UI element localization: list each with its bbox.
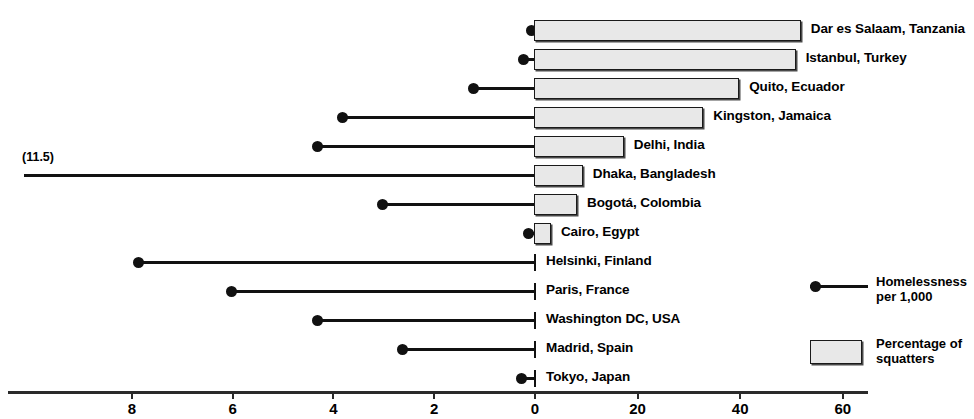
homelessness-dot — [523, 228, 534, 239]
row-label: Tokyo, Japan — [546, 369, 630, 384]
homelessness-dot — [133, 257, 144, 268]
squatters-bar — [534, 107, 703, 128]
chart-row: Cairo, Egypt — [0, 220, 974, 249]
chart-row: Helsinki, Finland — [0, 249, 974, 278]
squatters-bar — [534, 78, 739, 99]
axis-tick-mark — [433, 391, 435, 399]
chart-row: Paris, France — [0, 278, 974, 307]
homelessness-dot — [397, 344, 408, 355]
squatters-bar — [534, 136, 624, 157]
chart-row: Delhi, India — [0, 133, 974, 162]
row-label: Delhi, India — [634, 137, 705, 152]
row-label: Washington DC, USA — [546, 311, 680, 326]
row-label: Quito, Ecuador — [749, 79, 844, 94]
axis-tick-label-right-60: 60 — [834, 400, 851, 417]
axis-tick-mark — [534, 391, 536, 399]
legend-label: Percentage of squatters — [876, 336, 962, 366]
chart-row: Tokyo, Japan — [0, 365, 974, 394]
squatters-bar — [534, 20, 801, 41]
homelessness-stem — [474, 87, 534, 90]
legend-box-swatch — [810, 340, 862, 364]
off-scale-annotation: (11.5) — [22, 150, 54, 164]
squatters-bar — [534, 49, 796, 70]
row-baseline-tick — [534, 370, 536, 387]
axis-tick-mark — [637, 391, 639, 399]
homelessness-dot — [377, 199, 388, 210]
row-baseline-tick — [534, 341, 536, 358]
squatters-bar — [534, 194, 577, 215]
row-baseline-tick — [534, 254, 536, 271]
row-label: Cairo, Egypt — [561, 224, 639, 239]
chart-row: Washington DC, USA — [0, 307, 974, 336]
homelessness-dot — [312, 141, 323, 152]
plot-area: Dar es Salaam, TanzaniaIstanbul, TurkeyQ… — [0, 0, 974, 392]
axis-tick-label-zero: 0 — [531, 400, 539, 417]
x-axis: 86420204060 — [0, 391, 974, 419]
homelessness-dot — [337, 112, 348, 123]
row-label: Helsinki, Finland — [546, 253, 652, 268]
homelessness-stem — [138, 261, 534, 264]
axis-tick-mark — [842, 391, 844, 399]
chart-row: Dar es Salaam, Tanzania — [0, 17, 974, 46]
row-label: Bogotá, Colombia — [587, 195, 701, 210]
axis-tick-mark — [131, 391, 133, 399]
chart-row: Quito, Ecuador — [0, 75, 974, 104]
chart-row: Kingston, Jamaica — [0, 104, 974, 133]
axis-tick-label-left-4: 4 — [329, 400, 337, 417]
homelessness-stem — [317, 319, 534, 322]
row-label: Istanbul, Turkey — [806, 50, 907, 65]
homelessness-dot — [518, 54, 529, 65]
legend-label: Homelessness per 1,000 — [876, 274, 967, 304]
homelessness-stem — [342, 116, 534, 119]
axis-tick-mark — [739, 391, 741, 399]
homelessness-stem — [24, 174, 534, 177]
axis-tick-mark — [332, 391, 334, 399]
homelessness-dot — [312, 315, 323, 326]
homelessness-dot — [516, 373, 527, 384]
chart-row: Dhaka, Bangladesh — [0, 162, 974, 191]
chart-row: Istanbul, Turkey — [0, 46, 974, 75]
homelessness-stem — [403, 348, 534, 351]
homelessness-stem — [317, 145, 534, 148]
homelessness-stem — [383, 203, 534, 206]
row-label: Dar es Salaam, Tanzania — [811, 21, 965, 36]
row-label: Kingston, Jamaica — [713, 108, 831, 123]
chart-row: Bogotá, Colombia — [0, 191, 974, 220]
row-label: Madrid, Spain — [546, 340, 633, 355]
homelessness-dot — [226, 286, 237, 297]
axis-tick-label-left-6: 6 — [228, 400, 236, 417]
row-baseline-tick — [534, 283, 536, 300]
squatters-bar — [534, 223, 551, 244]
squatters-bar — [534, 165, 583, 186]
axis-tick-label-left-2: 2 — [430, 400, 438, 417]
row-label: Dhaka, Bangladesh — [593, 166, 716, 181]
row-label: Paris, France — [546, 282, 630, 297]
axis-tick-mark — [232, 391, 234, 399]
homelessness-dot — [468, 83, 479, 94]
homelessness-stem — [232, 290, 534, 293]
axis-tick-label-right-40: 40 — [732, 400, 749, 417]
row-baseline-tick — [534, 312, 536, 329]
axis-tick-label-left-8: 8 — [128, 400, 136, 417]
legend-dot-swatch — [810, 281, 821, 292]
axis-tick-label-right-20: 20 — [629, 400, 646, 417]
chart-root: Dar es Salaam, TanzaniaIstanbul, TurkeyQ… — [0, 0, 974, 419]
